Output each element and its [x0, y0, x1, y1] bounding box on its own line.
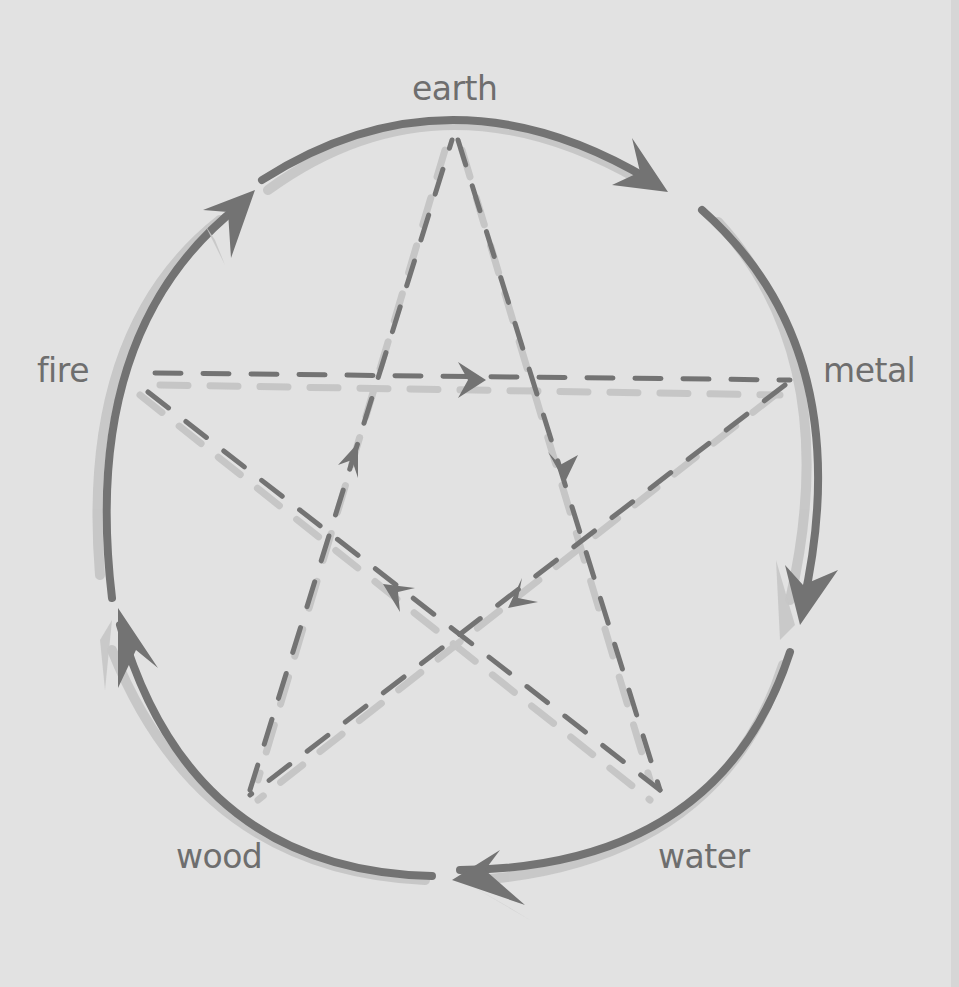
label-wood: wood [176, 840, 262, 873]
generating-cycle [98, 120, 839, 920]
cycle-diagram-canvas [0, 0, 959, 987]
five-elements-diagram: earth metal water wood fire [0, 0, 959, 987]
dashed-wood-to-earth [250, 140, 452, 790]
label-earth: earth [412, 72, 497, 105]
label-water: water [658, 840, 750, 873]
dashed-water-to-fire [148, 392, 660, 790]
inner-arrowhead-up-icon [338, 443, 358, 478]
label-fire: fire [37, 354, 89, 387]
label-metal: metal [823, 354, 915, 387]
